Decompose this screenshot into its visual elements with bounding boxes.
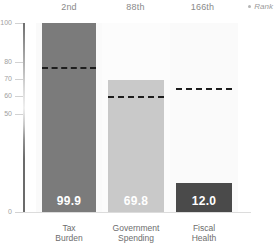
category-label-fiscal-health: Fiscal Health	[172, 223, 236, 243]
y-tick-70: 70	[0, 79, 23, 80]
y-axis-line	[23, 23, 25, 212]
y-tick-line-100	[15, 23, 23, 24]
rank-label-government-spending: 88th	[105, 2, 166, 12]
legend-rank-label: Rank	[254, 2, 273, 11]
plot-area: 100 80 70 60 50 0 99.9 69.8	[0, 18, 274, 245]
bar-chart: 2nd 88th 166th Rank 100 80 70 60	[0, 0, 274, 245]
rank-marker-tax-burden	[42, 67, 96, 69]
y-tick-label-70: 70	[4, 74, 12, 83]
rank-row: 2nd 88th 166th Rank	[0, 0, 274, 18]
bar-value-fiscal-health: 12.0	[176, 194, 232, 208]
rank-marker-government-spending	[108, 96, 164, 98]
category-label-government-spending: Government Spending	[104, 223, 168, 243]
bar-government-spending[interactable]: 69.8	[108, 80, 164, 212]
y-tick-60: 60	[0, 96, 23, 97]
y-tick-label-60: 60	[4, 91, 12, 100]
y-tick-line-60	[15, 96, 23, 97]
x-axis-baseline	[23, 212, 251, 213]
rank-marker-fiscal-health	[176, 88, 232, 90]
rank-dot-icon	[248, 5, 251, 8]
bar-value-government-spending: 69.8	[108, 194, 164, 208]
y-tick-0: 0	[0, 212, 23, 213]
y-tick-100: 100	[0, 23, 23, 24]
legend-rank: Rank	[248, 2, 273, 11]
y-tick-line-50	[15, 114, 23, 115]
rank-label-tax-burden: 2nd	[42, 2, 96, 12]
category-label-tax-burden: Tax Burden	[42, 223, 96, 243]
y-tick-line-70	[15, 79, 23, 80]
y-tick-label-100: 100	[0, 18, 12, 27]
bar-value-tax-burden: 99.9	[42, 194, 96, 208]
y-tick-line-80	[15, 62, 23, 63]
y-tick-label-80: 80	[4, 57, 12, 66]
bar-tax-burden[interactable]: 99.9	[42, 23, 96, 212]
y-tick-80: 80	[0, 62, 23, 63]
y-tick-label-50: 50	[4, 109, 12, 118]
y-tick-line-0	[15, 212, 23, 213]
bar-fiscal-health[interactable]: 12.0	[176, 183, 232, 212]
rank-label-fiscal-health: 166th	[172, 2, 233, 12]
y-tick-label-0: 0	[8, 207, 12, 216]
y-tick-50: 50	[0, 114, 23, 115]
